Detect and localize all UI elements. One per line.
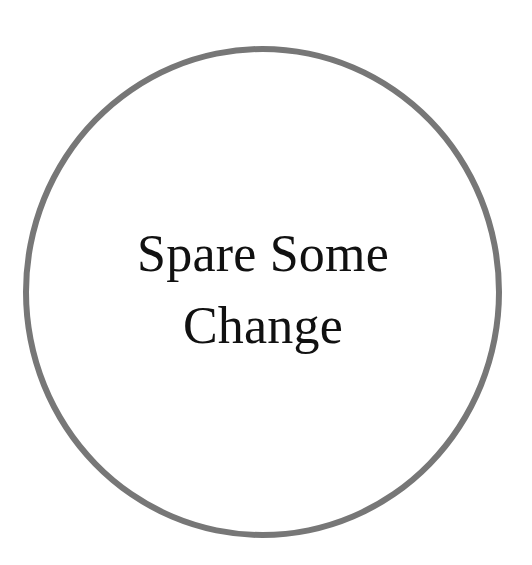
circle-outline (23, 46, 502, 538)
title-line-1: Spare Some (0, 228, 526, 280)
title-line-2: Change (0, 300, 526, 352)
